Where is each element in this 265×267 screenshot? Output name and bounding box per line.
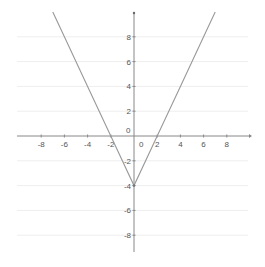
y-tick-label: -8 xyxy=(124,231,132,240)
x-axis-arrow-icon xyxy=(249,134,252,138)
x-tick-label: 6 xyxy=(201,140,206,149)
x-tick-label-zero: 0 xyxy=(139,140,144,149)
x-tick-label: -6 xyxy=(61,140,69,149)
axes xyxy=(17,12,252,252)
x-tick-label: -8 xyxy=(38,140,46,149)
x-tick-label: 4 xyxy=(178,140,183,149)
y-tick-label: -2 xyxy=(124,157,132,166)
y-tick-label: 4 xyxy=(127,82,132,91)
y-tick-label: -4 xyxy=(124,182,132,191)
y-tick-label: 8 xyxy=(127,33,132,42)
x-tick-label: -4 xyxy=(84,140,92,149)
y-axis-arrow-icon xyxy=(133,12,135,14)
y-tick-label: 2 xyxy=(127,107,132,116)
y-tick-label-zero: 0 xyxy=(126,126,131,135)
x-tick-label: 2 xyxy=(155,140,160,149)
y-tick-label: -6 xyxy=(124,206,132,215)
function-graph: -8-6-4-2246800-8-6-4-22468 xyxy=(0,0,265,267)
y-tick-label: 6 xyxy=(127,58,132,67)
vertex-point xyxy=(133,184,136,187)
x-tick-label: 8 xyxy=(225,140,230,149)
